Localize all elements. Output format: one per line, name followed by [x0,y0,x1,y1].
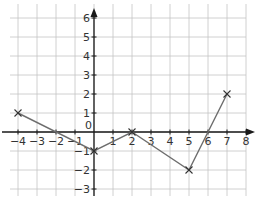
y-tick-label: −2 [74,164,90,177]
x-tick-label: −3 [29,135,45,148]
y-tick-label: 5 [83,31,90,44]
x-tick-label: −4 [10,135,26,148]
x-tick-label: 8 [243,135,250,148]
x-tick-label: 2 [129,135,136,148]
y-tick-label: −1 [74,145,90,158]
y-tick-label: 1 [83,107,90,120]
x-tick-label: 4 [167,135,174,148]
y-tick-label: 2 [83,88,90,101]
y-axis-arrow-icon [91,8,98,17]
x-tick-label: 5 [186,135,193,148]
x-tick-label: 0 [85,119,92,132]
axes [2,8,255,196]
y-tick-label: 3 [83,69,90,82]
y-tick-label: 4 [83,50,90,63]
line-chart: −4−3−2−1012345678 −3−2−1123456 [0,0,257,199]
x-tick-label: −2 [48,135,64,148]
y-tick-label: −3 [74,183,90,196]
y-tick-label: 6 [83,12,90,25]
grid-lines [10,4,246,196]
x-tick-label: 7 [224,135,231,148]
y-tick-labels: −3−2−1123456 [74,12,90,196]
